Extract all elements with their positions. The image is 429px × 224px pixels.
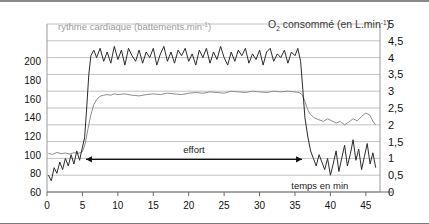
y-tick-label-left: 200 xyxy=(24,56,41,67)
x-tick-label: 30 xyxy=(254,200,266,211)
y-tick-label-left: 80 xyxy=(30,168,42,179)
chart-stage: 051015202530354045 608010012014016018020… xyxy=(0,2,429,224)
x-tick-label: 40 xyxy=(325,200,337,211)
y-tick-label-left: 160 xyxy=(24,94,41,105)
y-tick-label-right: 2 xyxy=(388,119,394,131)
x-tick-label: 0 xyxy=(44,200,50,211)
y-tick-label-right: 1,5 xyxy=(388,136,403,148)
y-tick-label-left: 180 xyxy=(24,75,41,86)
y-tick-label-right: 4 xyxy=(388,52,394,64)
y-tick-label-right: 0,5 xyxy=(388,169,403,181)
x-tick-label: 20 xyxy=(183,200,195,211)
left-axis-title: rythme cardiaque (battements.min-1) xyxy=(58,21,211,32)
right-axis-title: O2 consommé (en L.min-1) xyxy=(268,18,390,32)
x-tick-label: 10 xyxy=(112,200,124,211)
y-tick-label-right: 2,5 xyxy=(388,102,403,114)
y-tick-label-right: 1 xyxy=(388,152,394,164)
x-tick-label: 5 xyxy=(80,200,86,211)
y-tick-label-right: 0 xyxy=(388,186,394,198)
figure-frame: 051015202530354045 608010012014016018020… xyxy=(0,0,429,224)
chart-svg: 051015202530354045 608010012014016018020… xyxy=(0,2,429,224)
y-tick-label-right: 3,5 xyxy=(388,68,403,80)
time-axis-label: temps en min xyxy=(291,180,348,191)
y-tick-label-left: 100 xyxy=(24,150,41,161)
x-tick-label: 25 xyxy=(219,200,231,211)
x-tick-label: 35 xyxy=(289,200,301,211)
x-tick-label: 45 xyxy=(360,200,372,211)
y-tick-label-right: 3 xyxy=(388,85,394,97)
y-tick-label-left: 120 xyxy=(24,131,41,142)
y-tick-labels-right: 00,511,522,533,544,55 xyxy=(388,18,403,198)
y-tick-label-left: 60 xyxy=(30,187,42,198)
y-tick-label-left: 140 xyxy=(24,112,41,123)
y-tick-label-right: 4,5 xyxy=(388,35,403,47)
effort-label: effort xyxy=(183,144,205,155)
x-tick-label: 15 xyxy=(148,200,160,211)
